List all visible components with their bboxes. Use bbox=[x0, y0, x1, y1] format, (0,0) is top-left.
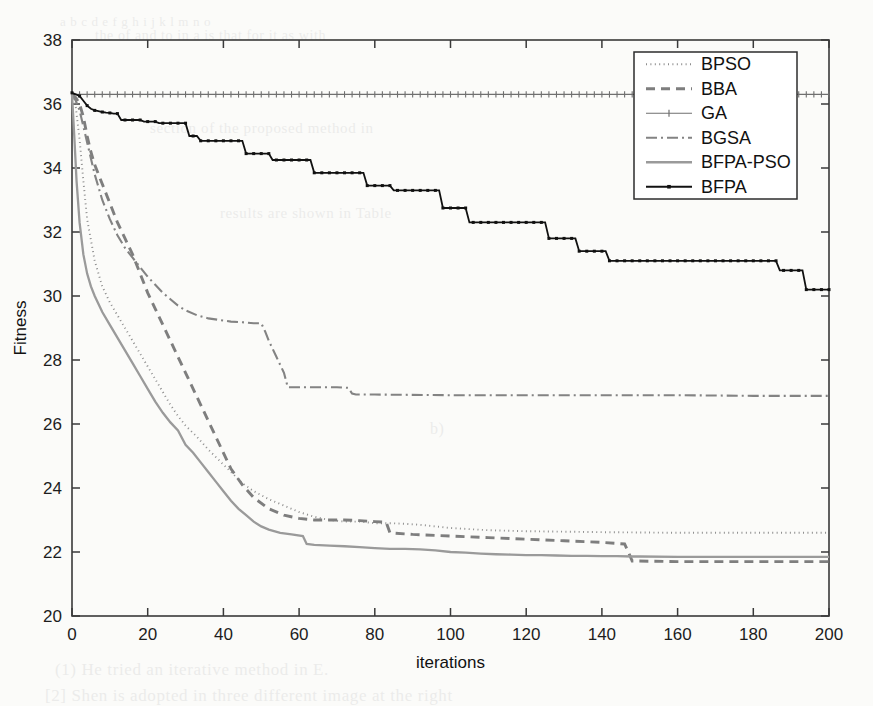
series-marker-bfpa bbox=[805, 288, 808, 291]
series-marker-bfpa bbox=[237, 139, 240, 142]
series-marker-bfpa bbox=[199, 139, 202, 142]
series-marker-bfpa bbox=[298, 159, 301, 162]
series-marker-bfpa bbox=[744, 259, 747, 262]
series-marker-bfpa bbox=[252, 152, 255, 155]
series-marker-bfpa bbox=[616, 259, 619, 262]
x-tick-label-80: 80 bbox=[365, 625, 384, 644]
series-marker-bfpa bbox=[419, 189, 422, 192]
x-tick-label-0: 0 bbox=[67, 625, 76, 644]
series-marker-bfpa bbox=[494, 221, 497, 224]
x-tick-label-160: 160 bbox=[663, 625, 691, 644]
series-marker-bfpa bbox=[631, 259, 634, 262]
series-marker-bfpa bbox=[154, 120, 157, 123]
series-marker-bfpa bbox=[578, 250, 581, 253]
series-marker-bfpa bbox=[729, 259, 732, 262]
series-marker-bfpa bbox=[767, 259, 770, 262]
series-marker-bfpa bbox=[381, 184, 384, 187]
y-axis-title: Fitness bbox=[11, 301, 30, 356]
series-marker-bfpa bbox=[775, 259, 778, 262]
series-marker-bfpa bbox=[828, 288, 831, 291]
series-marker-bfpa bbox=[653, 259, 656, 262]
series-marker-bfpa bbox=[479, 221, 482, 224]
series-marker-bfpa bbox=[396, 189, 399, 192]
series-marker-bfpa bbox=[275, 159, 278, 162]
y-tick-label-32: 32 bbox=[43, 223, 62, 242]
series-marker-bfpa bbox=[646, 259, 649, 262]
series-marker-bfpa bbox=[207, 139, 210, 142]
series-marker-bfpa bbox=[161, 122, 164, 125]
series-marker-bfpa bbox=[93, 109, 96, 112]
series-marker-bfpa bbox=[585, 250, 588, 253]
series-marker-bfpa bbox=[411, 189, 414, 192]
series-marker-bfpa bbox=[790, 269, 793, 272]
series-marker-bfpa bbox=[101, 111, 104, 114]
series-marker-bfpa bbox=[260, 152, 263, 155]
x-tick-label-100: 100 bbox=[436, 625, 464, 644]
x-tick-label-120: 120 bbox=[512, 625, 540, 644]
legend-label-bba: BBA bbox=[701, 79, 737, 99]
series-marker-bfpa bbox=[706, 259, 709, 262]
series-marker-bfpa bbox=[449, 207, 452, 210]
series-marker-bfpa bbox=[131, 119, 134, 122]
series-marker-bfpa bbox=[623, 259, 626, 262]
series-marker-bfpa bbox=[290, 159, 293, 162]
series-marker-bfpa bbox=[600, 250, 603, 253]
series-marker-bfpa bbox=[328, 171, 331, 174]
series-marker-bfpa bbox=[722, 259, 725, 262]
series-marker-bfpa bbox=[282, 159, 285, 162]
series-marker-bfpa bbox=[192, 135, 195, 138]
series-marker-bfpa bbox=[78, 95, 81, 98]
x-tick-label-20: 20 bbox=[138, 625, 157, 644]
series-marker-bfpa bbox=[812, 288, 815, 291]
series-marker-bfpa bbox=[305, 159, 308, 162]
series-marker-bfpa bbox=[404, 189, 407, 192]
series-marker-bfpa bbox=[343, 171, 346, 174]
series-marker-bfpa bbox=[684, 259, 687, 262]
series-marker-bfpa bbox=[146, 120, 149, 123]
series-marker-bfpa bbox=[222, 139, 225, 142]
series-marker-bfpa bbox=[510, 221, 513, 224]
y-tick-label-28: 28 bbox=[43, 351, 62, 370]
series-marker-bfpa bbox=[426, 189, 429, 192]
series-marker-bfpa bbox=[547, 237, 550, 240]
series-marker-bfpa bbox=[540, 221, 543, 224]
series-marker-bfpa bbox=[563, 237, 566, 240]
series-marker-bfpa bbox=[608, 259, 611, 262]
series-marker-bfpa bbox=[752, 259, 755, 262]
series-marker-bfpa bbox=[532, 221, 535, 224]
series-marker-bfpa bbox=[176, 122, 179, 125]
series-marker-bfpa bbox=[373, 184, 376, 187]
series-marker-bfpa bbox=[86, 104, 89, 107]
series-marker-bfpa bbox=[487, 221, 490, 224]
series-marker-bfpa bbox=[139, 119, 142, 122]
series-marker-bfpa bbox=[358, 171, 361, 174]
series-marker-bfpa bbox=[737, 259, 740, 262]
series-marker-bfpa bbox=[335, 171, 338, 174]
series-marker-bfpa bbox=[388, 184, 391, 187]
x-tick-label-60: 60 bbox=[290, 625, 309, 644]
series-marker-bfpa bbox=[638, 259, 641, 262]
series-marker-bfpa bbox=[593, 250, 596, 253]
y-tick-label-20: 20 bbox=[43, 607, 62, 626]
series-marker-bfpa bbox=[108, 111, 111, 114]
series-marker-bfpa bbox=[313, 171, 316, 174]
series-marker-bfpa bbox=[351, 171, 354, 174]
y-tick-label-36: 36 bbox=[43, 95, 62, 114]
series-marker-bfpa bbox=[472, 221, 475, 224]
series-marker-bfpa bbox=[714, 259, 717, 262]
series-marker-bfpa bbox=[820, 288, 823, 291]
series-marker-bfpa bbox=[245, 152, 248, 155]
x-tick-label-200: 200 bbox=[815, 625, 843, 644]
y-tick-label-30: 30 bbox=[43, 287, 62, 306]
series-marker-bfpa bbox=[116, 112, 119, 115]
series-marker-bfpa bbox=[502, 221, 505, 224]
legend-label-ga: GA bbox=[701, 103, 727, 123]
series-marker-bfpa bbox=[366, 184, 369, 187]
y-tick-label-34: 34 bbox=[43, 159, 62, 178]
series-marker-bfpa bbox=[434, 189, 437, 192]
series-marker-bfpa bbox=[669, 259, 672, 262]
series-marker-bfpa bbox=[676, 259, 679, 262]
x-tick-label-40: 40 bbox=[214, 625, 233, 644]
series-marker-bfpa bbox=[570, 237, 573, 240]
